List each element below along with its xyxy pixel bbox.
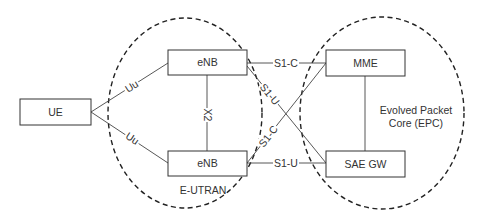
uu-bottom-label: Uu [124, 129, 142, 146]
enb-bottom-node: eNB [168, 151, 247, 176]
epc-label-line2: Core (EPC) [389, 117, 443, 129]
enb-bottom-label: eNB [197, 157, 217, 169]
mme-node: MME [326, 50, 405, 76]
sae-gw-label: SAE GW [344, 158, 386, 170]
s1c-top-label: S1-C [274, 57, 298, 69]
enb-top-label: eNB [197, 56, 217, 68]
x2-label: X2 [202, 109, 214, 122]
lte-architecture-diagram: UE eNB eNB MME SAE GW Uu Uu X2 S1-C S1-U… [0, 0, 480, 220]
eutran-label: E-UTRAN [180, 184, 227, 196]
sae-gw-node: SAE GW [326, 151, 405, 177]
s1u-bottom-label: S1-U [274, 157, 298, 169]
ue-label: UE [48, 106, 63, 118]
ue-node: UE [20, 99, 91, 125]
mme-label: MME [353, 57, 378, 69]
enb-top-node: eNB [168, 50, 247, 75]
epc-label-line1: Evolved Packet [380, 104, 452, 116]
eutran-region [108, 18, 262, 208]
uu-top-label: Uu [123, 77, 141, 94]
